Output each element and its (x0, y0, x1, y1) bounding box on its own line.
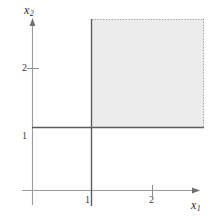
x-axis-tick-label-1: 1 (85, 195, 90, 205)
x-axis-label-subscript: 1 (196, 204, 201, 213)
y-axis-arrowhead (30, 18, 36, 26)
y-axis-tick-label-2: 2 (22, 63, 27, 73)
feasible-region-fill (92, 19, 204, 128)
y-axis-tick-label-1: 1 (22, 131, 27, 141)
y-axis-label-subscript: 2 (29, 9, 34, 18)
y-axis-label: x2 (24, 4, 34, 18)
x-axis-tick-label-2: 2 (149, 195, 154, 205)
x-axis-arrowhead (192, 188, 200, 194)
x-axis-label: x1 (191, 199, 201, 213)
plot-canvas (0, 0, 218, 223)
cartesian-plot-figure: x2 x1 2 1 1 2 (0, 0, 218, 223)
